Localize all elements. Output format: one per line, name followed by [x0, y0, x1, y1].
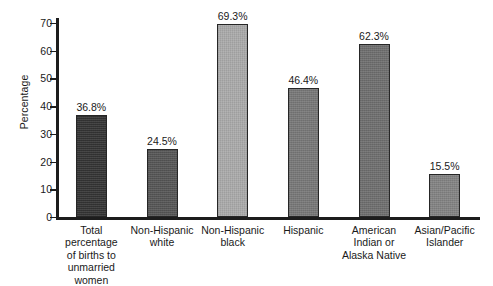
bar[interactable]: 62.3%	[359, 44, 390, 217]
y-axis-tick-label: 60	[40, 45, 52, 57]
y-axis-tick-label: 70	[40, 17, 52, 29]
x-axis-category-label: Asian/PacificIslander	[403, 224, 486, 249]
bar[interactable]: 69.3%	[217, 24, 248, 216]
y-axis-tick-label: 40	[40, 100, 52, 112]
y-axis-tick-label: 50	[40, 72, 52, 84]
bar-value-label: 46.4%	[288, 74, 318, 86]
y-axis-line	[56, 18, 59, 219]
bar-value-label: 69.3%	[218, 10, 248, 22]
bar-value-label: 36.8%	[76, 101, 106, 113]
y-axis-tick-label: 20	[40, 156, 52, 168]
bar[interactable]: 24.5%	[147, 149, 178, 217]
bar-value-label: 15.5%	[430, 160, 460, 172]
x-axis-category-label-line: black	[191, 236, 274, 248]
x-axis-category-label-line: of births to	[50, 249, 133, 261]
bar[interactable]: 46.4%	[288, 88, 319, 217]
bar[interactable]: 36.8%	[76, 115, 107, 217]
x-axis-category-label-line: Asian/Pacific	[403, 224, 486, 236]
y-axis-title: Percentage	[18, 54, 30, 150]
y-axis-tick-label: 10	[40, 183, 52, 195]
x-axis-category-label-line: Alaska Native	[333, 249, 416, 261]
bar-value-label: 24.5%	[147, 135, 177, 147]
bar[interactable]: 15.5%	[429, 174, 460, 217]
bar-value-label: 62.3%	[359, 30, 389, 42]
x-axis-category-label-line: unmarried women	[50, 261, 133, 286]
y-axis-tick-label: 0	[46, 211, 52, 223]
x-axis-line	[56, 217, 480, 220]
y-axis-tick-label: 30	[40, 128, 52, 140]
plot-area: 010203040506070 36.8%24.5%69.3%46.4%62.3…	[56, 18, 480, 219]
x-axis-category-label-line: Islander	[403, 236, 486, 248]
bar-chart: Percentage 010203040506070 36.8%24.5%69.…	[0, 0, 493, 286]
